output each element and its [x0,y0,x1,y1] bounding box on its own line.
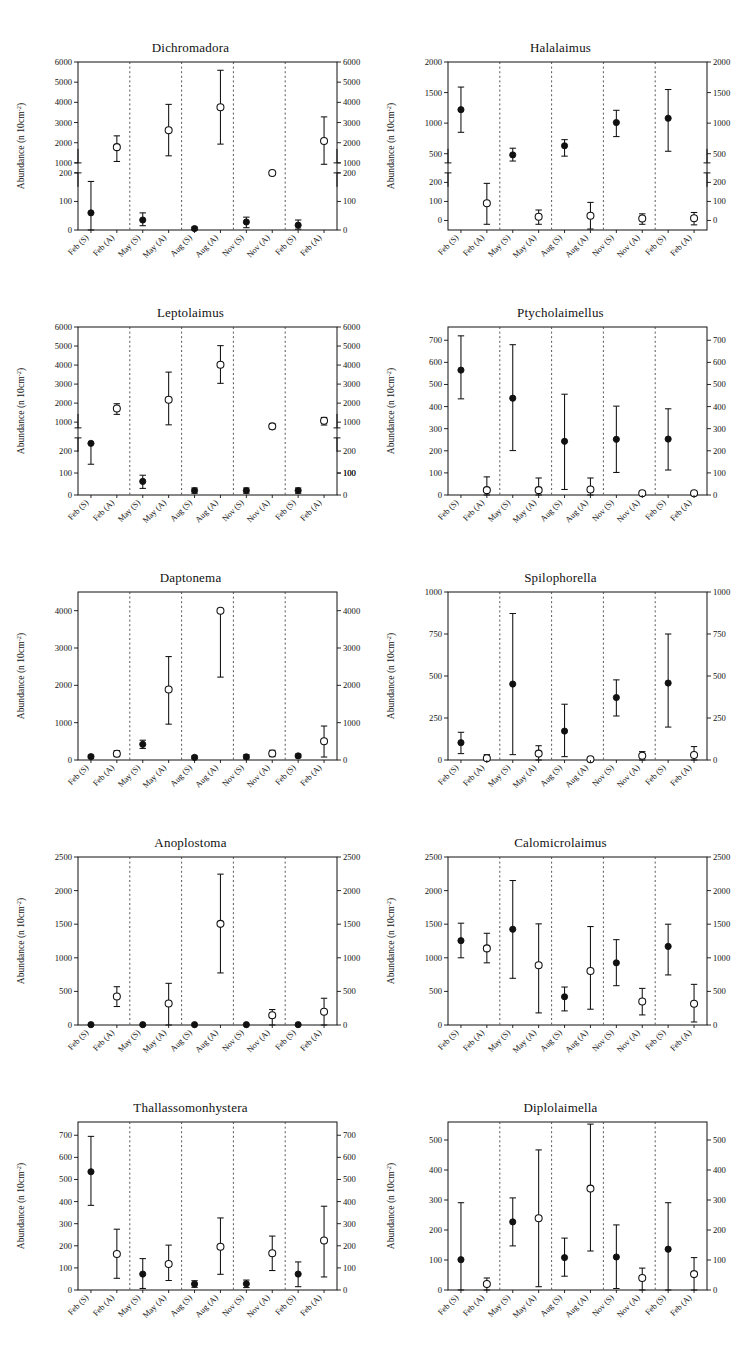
marker-filled-circle [140,478,146,484]
marker-filled-circle [561,143,567,149]
y-axis-title: Abundance (n 10cm-2) [385,633,397,719]
data-point-group [691,984,698,1022]
data-point-group [191,754,197,760]
x-tick-label: May (S) [116,498,142,524]
y-tick-label: 1000 [343,718,360,728]
data-point-group [458,923,464,958]
y-tick-label: 1000 [425,118,442,128]
x-tick-label: May (S) [116,763,142,789]
y-tick-label: 4000 [55,360,72,370]
y-tick-label: 1000 [713,587,730,597]
x-tick-label: Aug (S) [539,1028,564,1053]
data-point-group [458,87,464,132]
data-point-group [665,634,671,727]
marker-filled-circle [665,680,671,686]
y-tick-label: 2500 [343,852,360,862]
marker-open-circle [691,1000,698,1007]
data-point-group [483,1278,490,1290]
marker-open-circle [691,751,698,758]
data-point-group [587,927,594,1010]
x-tick-label: Feb (A) [669,1028,694,1053]
y-axis-title: Abundance (n 10cm-2) [15,103,27,189]
marker-filled-circle [140,1271,146,1277]
y-tick-label: 2000 [343,680,360,690]
x-tick-label: Aug (A) [564,1293,590,1319]
data-point-group [665,90,671,152]
data-point-group [140,1259,146,1289]
y-tick-label: 100 [343,196,356,206]
y-axis-title: Abundance (n 10cm-2) [385,368,397,454]
chart-panel-anoplostoma: Anoplostoma05001000150020002500050010001… [8,835,373,1097]
marker-open-circle [113,144,120,151]
chart-panel-leptolaimus: Leptolaimus01002001000200030004000500060… [8,305,373,567]
marker-filled-circle [243,219,249,225]
y-tick-label: 0 [68,755,72,765]
y-tick-label: 100 [429,1255,442,1265]
plot-area: 0100200500100015002000010020050010001500… [378,40,743,302]
data-point-group [113,987,120,1007]
data-point-group [458,732,464,753]
y-tick-label: 0 [438,755,442,765]
data-point-group [510,1198,516,1246]
marker-filled-circle [140,741,146,747]
x-tick-label: Feb (A) [461,498,486,523]
x-tick-label: Feb (A) [299,763,324,788]
data-point-group [217,346,224,384]
data-point-group [321,998,328,1025]
y-tick-label: 200 [429,177,442,187]
data-point-group [665,409,671,470]
marker-open-circle [321,738,328,745]
y-tick-label: 1500 [425,919,442,929]
y-tick-label: 0 [713,755,717,765]
marker-filled-circle [613,436,619,442]
y-axis-title: Abundance (n 10cm-2) [15,368,27,454]
marker-filled-circle [665,943,671,949]
y-tick-label: 1500 [713,919,730,929]
y-tick-label: 200 [343,1241,356,1251]
y-tick-label: 500 [713,1135,726,1145]
data-point-group [321,117,328,164]
y-tick-label: 3000 [343,118,360,128]
x-tick-label: Aug (S) [539,498,564,523]
x-tick-label: Nov (S) [590,1293,615,1318]
y-tick-label: 5000 [343,77,360,87]
y-tick-label: 0 [438,215,442,225]
y-tick-label: 4000 [343,606,360,616]
marker-filled-circle [458,740,464,746]
marker-open-circle [321,1237,328,1244]
x-tick-label: May (A) [141,1028,168,1055]
marker-filled-circle [295,222,301,228]
y-axis-title: Abundance (n 10cm-2) [15,1163,27,1249]
x-tick-label: May (S) [116,1028,142,1054]
marker-open-circle [113,1250,120,1257]
x-tick-label: May (A) [141,233,168,260]
y-tick-label: 500 [429,671,442,681]
data-point-group [613,940,619,986]
y-tick-label: 6000 [55,322,72,332]
y-tick-label: 300 [713,424,726,434]
marker-open-circle [217,1243,224,1250]
y-tick-label: 600 [343,1152,356,1162]
x-tick-label: Feb (S) [644,233,668,257]
y-tick-label: 200 [343,446,356,456]
data-point-group [295,1262,301,1287]
x-tick-label: Nov (A) [615,1028,641,1054]
x-tick-label: Feb (A) [461,1293,486,1318]
y-axis-title: Abundance (n 10cm-2) [15,898,27,984]
data-point-group [217,1218,224,1274]
marker-filled-circle [458,1257,464,1263]
y-tick-label: 2000 [55,138,72,148]
y-tick-label: 400 [429,402,442,412]
y-axis-title: Abundance (n 10cm-2) [385,103,397,189]
plot-area: 01002003004005000100200300400500Abundanc… [378,1100,743,1362]
x-tick-label: Feb (S) [644,1293,668,1317]
y-tick-label: 100 [713,468,726,478]
y-tick-label: 1500 [713,88,730,98]
marker-filled-circle [295,488,301,494]
y-tick-label: 2000 [343,398,360,408]
x-tick-label: Feb (S) [66,233,90,257]
y-tick-label: 0 [438,490,442,500]
y-tick-label: 3000 [343,643,360,653]
y-tick-label: 500 [343,1174,356,1184]
y-tick-label: 3000 [55,379,72,389]
